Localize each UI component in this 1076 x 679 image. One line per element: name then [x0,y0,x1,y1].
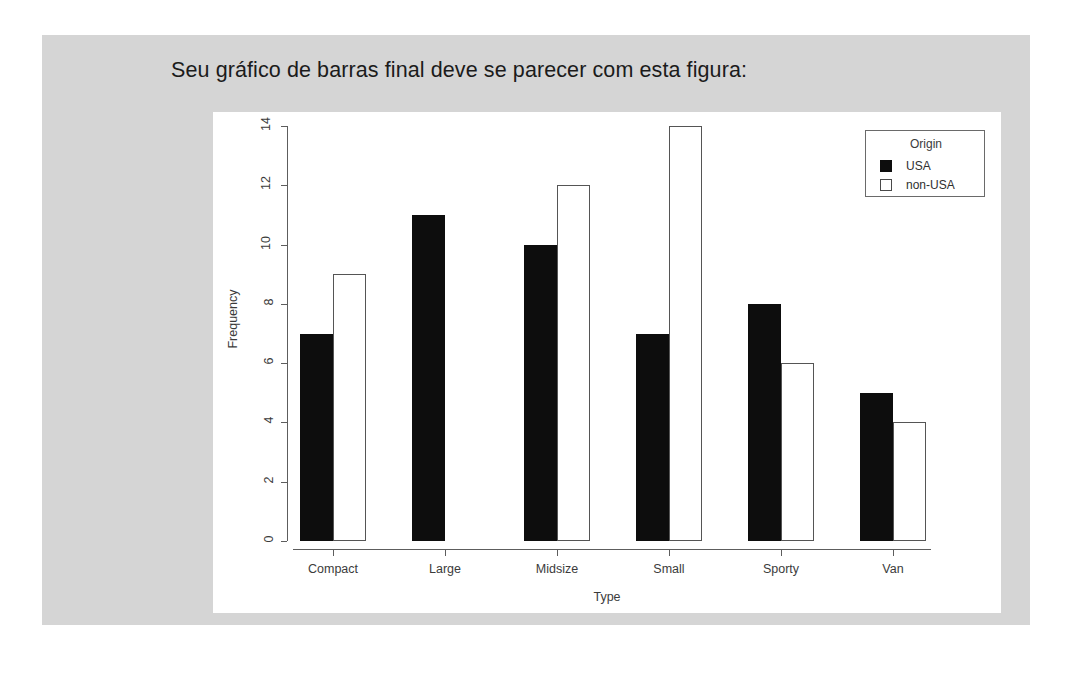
legend-swatch-usa-icon [880,160,892,172]
y-tick [281,304,287,305]
y-tick [281,126,287,127]
y-tick-label: 14 [213,117,273,131]
x-tick-label: Van [833,562,953,576]
y-axis-line [287,126,288,541]
y-tick [281,541,287,542]
y-tick [281,363,287,364]
x-tick [669,549,670,556]
bar-small-non-usa [669,126,702,541]
x-tick-label: Midsize [497,562,617,576]
bar-large-usa [412,215,445,541]
y-tick [281,422,287,423]
x-tick-label: Large [385,562,505,576]
legend-row-non-usa: non-USA [866,176,986,194]
y-tick-label: 10 [213,236,273,250]
legend-title: Origin [866,137,986,151]
bar-sporty-non-usa [781,363,814,541]
y-tick-label: 6 [213,354,273,368]
legend-label-usa: USA [906,159,931,173]
bar-midsize-non-usa [557,185,590,541]
bar-van-usa [860,393,893,541]
y-tick-label: 0 [213,532,273,546]
x-tick-label: Small [609,562,729,576]
slide-page: Seu gráfico de barras final deve se pare… [0,0,1076,679]
slide-title: Seu gráfico de barras final deve se pare… [171,56,747,84]
y-axis-title: Frequency [226,259,240,379]
bar-van-non-usa [893,422,926,541]
x-tick [333,549,334,556]
bar-compact-non-usa [333,274,366,541]
chart-legend: Origin USA non-USA [865,130,985,197]
bar-compact-usa [300,334,333,542]
bar-chart-figure: 02468101214 CompactLargeMidsizeSmallSpor… [213,112,1001,613]
x-tick [557,549,558,556]
bar-midsize-usa [524,245,557,541]
y-tick-label: 2 [213,473,273,487]
x-tick [893,549,894,556]
legend-label-non-usa: non-USA [906,178,955,192]
bar-small-usa [636,334,669,542]
x-axis-title: Type [213,590,1001,604]
y-tick-label: 8 [213,295,273,309]
legend-row-usa: USA [866,157,986,175]
x-tick-label: Compact [273,562,393,576]
y-tick-label: 12 [213,176,273,190]
x-tick [445,549,446,556]
y-tick [281,482,287,483]
x-axis-line [293,549,931,550]
plot-area: 02468101214 CompactLargeMidsizeSmallSpor… [213,112,1001,613]
legend-swatch-non-usa-icon [880,179,892,191]
y-tick [281,245,287,246]
y-tick-label: 4 [213,413,273,427]
y-tick [281,185,287,186]
bar-sporty-usa [748,304,781,541]
x-tick [781,549,782,556]
x-tick-label: Sporty [721,562,841,576]
